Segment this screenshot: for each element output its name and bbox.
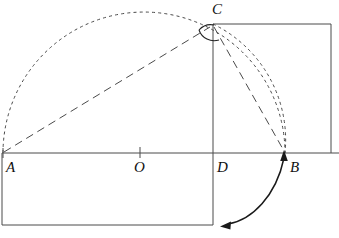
arrowhead-up <box>280 150 288 161</box>
geometry-canvas <box>0 0 339 238</box>
semicircle-arc-on-ab <box>3 12 285 153</box>
point-label-b: B <box>290 160 299 175</box>
point-label-a: A <box>6 160 15 175</box>
geometry-figure: A O D B C <box>0 0 339 238</box>
point-label-d: D <box>217 160 228 175</box>
point-label-o: O <box>134 160 145 175</box>
chord-segment-cb <box>214 27 284 151</box>
arrowhead-down-left <box>220 222 231 230</box>
point-label-c: C <box>212 2 222 17</box>
lower-left-rectangle <box>2 153 213 225</box>
chord-segment-ac <box>4 27 210 152</box>
upper-right-rectangle <box>213 24 331 153</box>
fold-motion-arrow <box>220 150 288 230</box>
